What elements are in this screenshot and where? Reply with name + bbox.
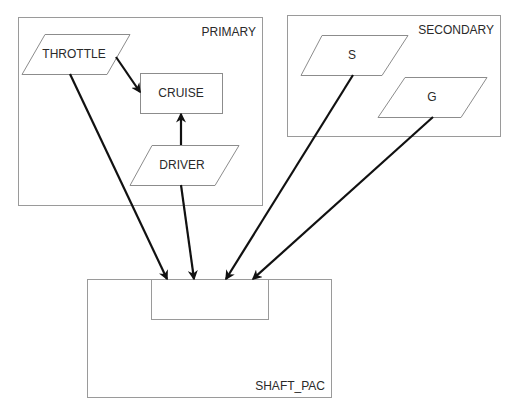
edge-g-to-shaft [253,117,433,279]
node-driver-label: DRIVER [159,158,205,172]
node-s-label: S [348,48,356,62]
node-g-label: G [427,90,436,104]
package-secondary-label: SECONDARY [418,23,494,37]
node-cruise[interactable]: CRUISE [141,74,223,114]
node-throttle-label: THROTTLE [42,47,105,61]
node-cruise-label: CRUISE [158,86,203,100]
diagram-canvas: PRIMARY SECONDARY SHAFT_PAC THROTTLE CRU… [0,0,516,413]
package-shaft-pac[interactable]: SHAFT_PAC [88,280,332,398]
shaft-pac-inner-box[interactable] [152,280,269,320]
package-primary-label: PRIMARY [202,25,256,39]
package-shaft-pac-label: SHAFT_PAC [255,379,325,393]
